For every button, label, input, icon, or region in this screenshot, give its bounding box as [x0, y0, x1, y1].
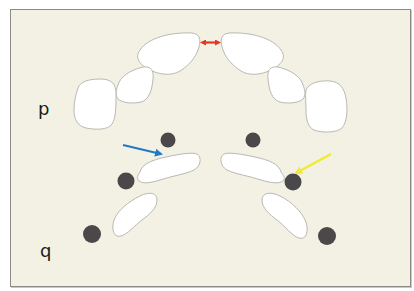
- dark-dot-lower-right: [318, 227, 336, 245]
- dark-dot-middle-right: [285, 174, 302, 191]
- curved-segment-upper-left: [137, 153, 200, 183]
- dark-dot-upper-right: [246, 133, 261, 148]
- curved-segment-lower-right: [262, 193, 307, 238]
- label-p: p: [38, 100, 49, 118]
- upper-canine-left-tooth: [74, 79, 116, 129]
- upper-lateral-right-tooth: [268, 67, 305, 103]
- dark-dot-upper-left: [161, 133, 176, 148]
- curved-segment-lower-left: [113, 193, 157, 236]
- dental-arch-diagram: [0, 0, 414, 291]
- upper-lateral-left-tooth: [116, 67, 153, 103]
- yellow-arrow: [296, 154, 331, 173]
- curved-segment-upper-right: [221, 153, 284, 183]
- dark-dot-middle-left: [118, 173, 135, 190]
- upper-canine-right-tooth: [306, 81, 347, 132]
- dark-dot-lower-left: [83, 225, 101, 243]
- blue-arrow: [123, 145, 161, 154]
- label-q: q: [40, 242, 51, 260]
